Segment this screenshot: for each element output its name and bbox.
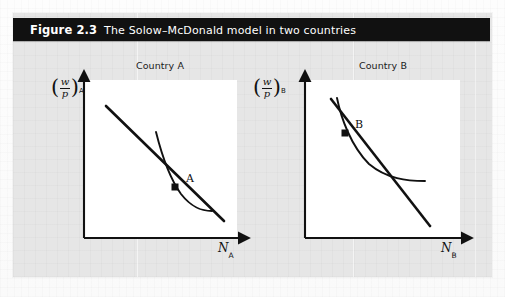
axes-country-a <box>50 60 250 260</box>
figure-title: The Solow–McDonald model in two countrie… <box>104 24 356 37</box>
figure-caption: Figure 2.3 The Solow–McDonald model in t… <box>30 23 356 37</box>
x-axis-label-a: NA <box>218 241 234 257</box>
fraction-denominator: p <box>263 89 271 99</box>
figure-number: Figure 2.3 <box>30 23 97 37</box>
panel-country-a: Country A ( w p ) A A N <box>50 60 250 260</box>
x-axis-label-b: NB <box>441 241 457 257</box>
x-axis-symbol: N <box>218 241 229 255</box>
axes-country-b <box>271 60 476 260</box>
figure-caption-bar: Figure 2.3 The Solow–McDonald model in t… <box>13 18 490 41</box>
paren-open: ( <box>253 79 261 96</box>
x-axis-subscript: A <box>229 251 234 260</box>
x-axis-symbol: N <box>441 241 452 255</box>
x-axis-subscript: B <box>452 251 457 260</box>
panel-country-b: Country B ( w p ) B B NB <box>271 60 476 260</box>
